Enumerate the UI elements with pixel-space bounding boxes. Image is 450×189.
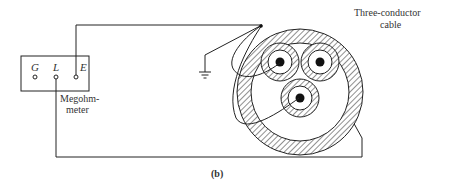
megohmmeter-cable-test-diagram: G L E Megohm- meter bbox=[0, 0, 450, 189]
three-conductor-cable bbox=[232, 24, 363, 155]
terminal-label-e: E bbox=[79, 61, 87, 73]
terminal-label-l: L bbox=[52, 61, 59, 73]
terminal-l bbox=[54, 75, 58, 79]
terminal-g bbox=[33, 75, 37, 79]
meter-label-line1: Megohm- bbox=[60, 93, 99, 104]
conductor-3 bbox=[281, 79, 319, 117]
conductor-3-core bbox=[296, 94, 305, 103]
terminal-label-g: G bbox=[31, 61, 39, 73]
conductor-2-core bbox=[316, 58, 325, 67]
meter-label-line2: meter bbox=[66, 104, 89, 115]
megohmmeter: G L E Megohm- meter bbox=[21, 56, 99, 115]
cable-label-line1: Three-conductor bbox=[354, 7, 421, 18]
cable-label-line2: cable bbox=[380, 19, 402, 30]
earth-lead-wire bbox=[76, 25, 262, 75]
terminal-e bbox=[74, 75, 78, 79]
conductor-2 bbox=[301, 43, 339, 81]
figure-caption: (b) bbox=[211, 168, 223, 180]
sheath-junction bbox=[259, 24, 263, 28]
conductor-1 bbox=[261, 43, 299, 81]
